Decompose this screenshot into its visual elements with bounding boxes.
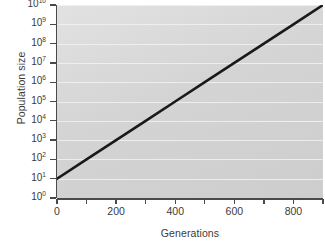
y-tick-mark bbox=[50, 159, 56, 160]
y-tick-label: 100 bbox=[31, 192, 46, 202]
x-tick-mark bbox=[204, 199, 205, 204]
y-tick-label: 106 bbox=[31, 76, 46, 86]
y-tick-label: 107 bbox=[31, 57, 46, 67]
y-tick-mark bbox=[50, 178, 56, 179]
x-tick-label: 200 bbox=[96, 206, 136, 217]
y-tick-mark bbox=[50, 120, 56, 121]
population-growth-chart: Population size 100101102103104105106107… bbox=[0, 0, 325, 247]
y-tick-label: 109 bbox=[31, 18, 46, 28]
data-series-layer bbox=[57, 5, 323, 198]
y-axis-title: Population size bbox=[15, 23, 27, 153]
y-tick-label: 105 bbox=[31, 96, 46, 106]
x-tick-mark bbox=[175, 199, 176, 204]
y-tick-label: 104 bbox=[31, 115, 46, 125]
x-tick-mark bbox=[322, 199, 323, 204]
x-tick-mark bbox=[115, 199, 116, 204]
x-tick-mark bbox=[56, 199, 57, 204]
x-tick-mark bbox=[293, 199, 294, 204]
x-tick-mark bbox=[86, 199, 87, 204]
x-tick-label: 800 bbox=[273, 206, 313, 217]
y-tick-label: 108 bbox=[31, 38, 46, 48]
y-tick-mark bbox=[50, 43, 56, 44]
x-axis-title: Generations bbox=[57, 227, 323, 239]
x-tick-mark bbox=[263, 199, 264, 204]
x-tick-mark bbox=[234, 199, 235, 204]
y-tick-label: 103 bbox=[31, 134, 46, 144]
series-line bbox=[57, 5, 323, 179]
x-tick-label: 600 bbox=[214, 206, 254, 217]
y-tick-label: 102 bbox=[31, 153, 46, 163]
y-tick-mark bbox=[50, 101, 56, 102]
y-tick-mark bbox=[50, 82, 56, 83]
x-tick-mark bbox=[145, 199, 146, 204]
plot-area bbox=[57, 5, 323, 198]
x-tick-label: 400 bbox=[155, 206, 195, 217]
y-tick-mark bbox=[50, 62, 56, 63]
y-tick-mark bbox=[50, 139, 56, 140]
y-tick-mark bbox=[50, 197, 56, 198]
x-axis-line bbox=[57, 198, 323, 200]
y-tick-label: 101 bbox=[31, 173, 46, 183]
y-tick-label: 1010 bbox=[28, 0, 46, 9]
y-tick-mark bbox=[50, 4, 56, 5]
y-tick-mark bbox=[50, 24, 56, 25]
x-tick-label: 0 bbox=[37, 206, 77, 217]
